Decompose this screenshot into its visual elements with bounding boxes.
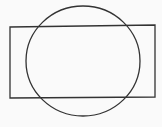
background [0,0,162,127]
diagram-canvas [0,0,162,127]
